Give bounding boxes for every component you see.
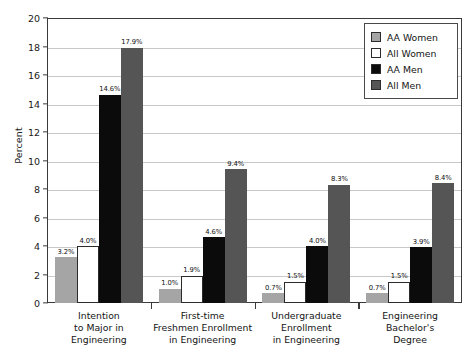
bar[interactable] xyxy=(262,293,284,303)
bar[interactable] xyxy=(388,282,410,303)
legend-label: AA Women xyxy=(387,32,438,43)
bar[interactable] xyxy=(432,183,454,303)
bar-value-label: 8.4% xyxy=(435,174,452,182)
bar-value-label: 0.7% xyxy=(265,284,282,292)
bar[interactable] xyxy=(159,289,181,303)
y-tick-label: 10 xyxy=(6,155,40,166)
legend-item[interactable]: All Women xyxy=(371,45,451,61)
bar-value-label: 4.0% xyxy=(79,237,96,245)
bar-group: 1.0%1.9%4.6%9.4% xyxy=(151,18,255,303)
y-tick-label: 4 xyxy=(6,241,40,252)
legend-swatch-icon xyxy=(371,80,381,90)
bar-column[interactable]: 14.6% xyxy=(99,18,121,303)
legend-swatch-icon xyxy=(371,32,381,42)
x-category-line: in Engineering xyxy=(255,334,359,346)
legend-label: All Women xyxy=(387,48,437,59)
x-category-line: First-time xyxy=(151,310,255,322)
x-category-line: Engineering xyxy=(47,334,151,346)
bar-value-label: 0.7% xyxy=(369,284,386,292)
legend-item[interactable]: AA Men xyxy=(371,61,451,77)
bar-value-label: 8.3% xyxy=(331,175,348,183)
bar-column[interactable]: 9.4% xyxy=(225,18,247,303)
x-category-line: Degree xyxy=(358,334,462,346)
bar[interactable] xyxy=(306,246,328,303)
x-category-line: Enrollment xyxy=(255,322,359,334)
bar-chart: Percent 02468101214161820 3.2%4.0%14.6%1… xyxy=(0,0,472,358)
y-tick-label: 8 xyxy=(6,184,40,195)
group-separator-tick xyxy=(358,303,359,309)
x-axis-category-labels: Intentionto Major inEngineeringFirst-tim… xyxy=(47,310,462,356)
legend-label: AA Men xyxy=(387,64,423,75)
bar[interactable] xyxy=(99,95,121,303)
bar-value-label: 1.5% xyxy=(287,272,304,280)
y-tick-label: 14 xyxy=(6,98,40,109)
bar[interactable] xyxy=(121,48,143,303)
bar-value-label: 3.9% xyxy=(413,238,430,246)
legend-item[interactable]: All Men xyxy=(371,77,451,93)
bar[interactable] xyxy=(410,247,432,303)
bar[interactable] xyxy=(77,246,99,303)
group-separator-tick xyxy=(151,303,152,309)
bar-column[interactable]: 3.2% xyxy=(55,18,77,303)
x-category-line: Engineering xyxy=(358,310,462,322)
bar-value-label: 17.9% xyxy=(121,38,142,46)
bar-value-label: 4.6% xyxy=(205,228,222,236)
x-category-line: Intention xyxy=(47,310,151,322)
y-axis-title: Percent xyxy=(13,106,24,186)
x-category-label: First-timeFreshmen Enrollmentin Engineer… xyxy=(151,310,255,347)
bar-column[interactable]: 4.0% xyxy=(77,18,99,303)
x-category-line: in Engineering xyxy=(151,334,255,346)
bar-column[interactable]: 17.9% xyxy=(121,18,143,303)
x-category-line: Freshmen Enrollment xyxy=(151,322,255,334)
bar[interactable] xyxy=(328,185,350,303)
legend-swatch-icon xyxy=(371,64,381,74)
bar-column[interactable]: 4.6% xyxy=(203,18,225,303)
bar-column[interactable]: 4.0% xyxy=(306,18,328,303)
bar-value-label: 4.0% xyxy=(309,237,326,245)
x-category-line: Bachelor's xyxy=(358,322,462,334)
legend-item[interactable]: AA Women xyxy=(371,29,451,45)
bar-column[interactable]: 8.3% xyxy=(328,18,350,303)
bar-column[interactable]: 1.9% xyxy=(181,18,203,303)
bar-column[interactable]: 1.5% xyxy=(284,18,306,303)
y-tick-label: 20 xyxy=(6,13,40,24)
y-tick-label: 6 xyxy=(6,212,40,223)
y-tick-label: 18 xyxy=(6,41,40,52)
x-category-label: EngineeringBachelor'sDegree xyxy=(358,310,462,347)
bar-value-label: 9.4% xyxy=(227,160,244,168)
bar[interactable] xyxy=(225,169,247,303)
bar[interactable] xyxy=(55,257,77,303)
bar[interactable] xyxy=(181,276,203,303)
bar-column[interactable]: 0.7% xyxy=(262,18,284,303)
group-separator-tick xyxy=(255,303,256,309)
legend-label: All Men xyxy=(387,80,421,91)
bar[interactable] xyxy=(284,282,306,303)
bar-group: 0.7%1.5%4.0%8.3% xyxy=(255,18,359,303)
bar-value-label: 1.9% xyxy=(183,266,200,274)
legend-swatch-icon xyxy=(371,48,381,58)
bar-value-label: 14.6% xyxy=(99,85,120,93)
x-category-label: UndergraduateEnrollmentin Engineering xyxy=(255,310,359,347)
y-tick-label: 2 xyxy=(6,269,40,280)
bar-group: 3.2%4.0%14.6%17.9% xyxy=(47,18,151,303)
bar[interactable] xyxy=(203,237,225,303)
y-tick-label: 16 xyxy=(6,70,40,81)
bar-value-label: 1.0% xyxy=(161,279,178,287)
chart-legend: AA WomenAll WomenAA MenAll Men xyxy=(364,23,458,99)
y-tick-label: 0 xyxy=(6,298,40,309)
x-category-line: Undergraduate xyxy=(255,310,359,322)
y-tick-label: 12 xyxy=(6,127,40,138)
x-category-line: to Major in xyxy=(47,322,151,334)
bar-column[interactable]: 1.0% xyxy=(159,18,181,303)
bar[interactable] xyxy=(366,293,388,303)
bar-value-label: 3.2% xyxy=(57,248,74,256)
x-category-label: Intentionto Major inEngineering xyxy=(47,310,151,347)
bar-value-label: 1.5% xyxy=(391,272,408,280)
